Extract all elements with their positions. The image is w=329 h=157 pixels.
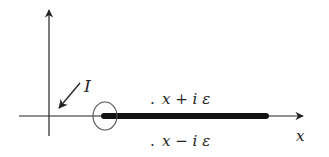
contour-diagram: I . x + i ε . x − i ε x (0, 0, 329, 157)
upper-dot: . (150, 90, 155, 108)
lower-expression: x − i ε (162, 132, 210, 150)
lower-dot: . (150, 132, 155, 150)
contour-arrow (59, 83, 80, 108)
x-axis-label: x (296, 127, 305, 145)
upper-expression: x + i ε (162, 90, 210, 108)
contour-label: I (83, 76, 91, 96)
